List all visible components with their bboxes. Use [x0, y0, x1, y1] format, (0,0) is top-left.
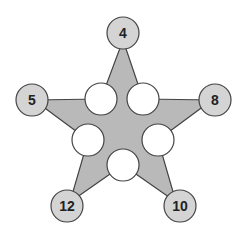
outer-circle-left-label: 5 [28, 92, 36, 108]
outer-circle-bottom-left: 12 [51, 190, 83, 222]
star-diagram: 4 5 8 12 10 [0, 0, 247, 242]
inner-circle-middle-left[interactable] [72, 124, 104, 156]
inner-circle-bottom[interactable] [107, 149, 139, 181]
outer-circle-right: 8 [199, 84, 231, 116]
outer-circle-top-label: 4 [119, 25, 127, 41]
inner-circle-upper-right[interactable] [127, 83, 159, 115]
outer-circle-right-label: 8 [211, 92, 219, 108]
inner-circle-upper-left[interactable] [85, 83, 117, 115]
outer-circle-bottom-left-label: 12 [59, 198, 75, 214]
outer-circle-top: 4 [107, 17, 139, 49]
outer-circle-bottom-right: 10 [164, 190, 196, 222]
outer-circle-left: 5 [16, 84, 48, 116]
outer-circle-bottom-right-label: 10 [172, 198, 188, 214]
inner-circle-middle-right[interactable] [142, 124, 174, 156]
